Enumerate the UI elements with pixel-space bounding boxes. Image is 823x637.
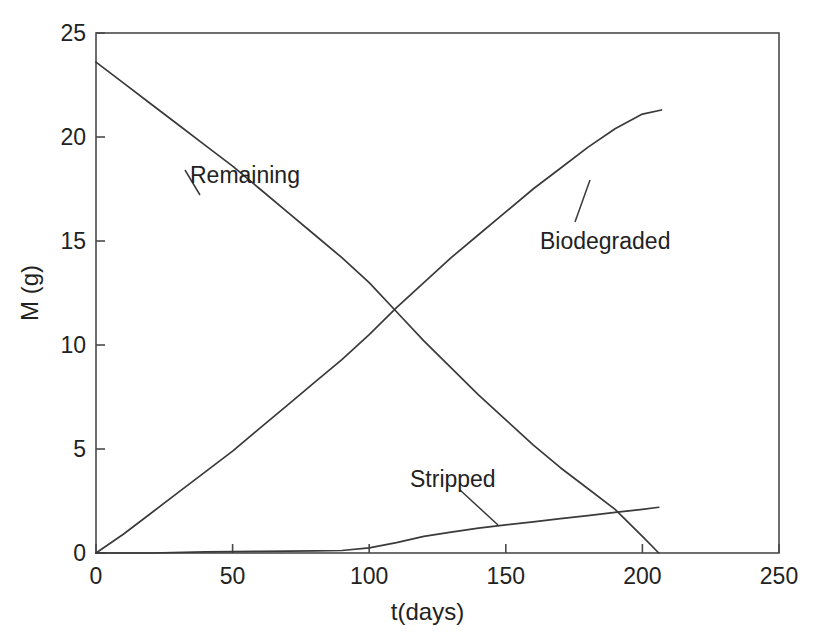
x-tick-label: 0 xyxy=(90,563,103,590)
x-tick-label: 150 xyxy=(487,563,525,590)
y-tick-label: 20 xyxy=(54,124,86,151)
chart-figure: 050100150200250 0510152025 RemainingBiod… xyxy=(0,0,823,637)
leader-line xyxy=(575,180,590,222)
plot-canvas xyxy=(0,0,823,637)
annotation-leader-lines xyxy=(185,170,590,525)
series-label: Remaining xyxy=(190,162,300,189)
series-line xyxy=(96,62,659,553)
x-axis-title: t(days) xyxy=(391,598,464,626)
series-line xyxy=(96,110,662,553)
y-tick-label: 5 xyxy=(54,436,86,463)
y-axis-title: M (g) xyxy=(16,265,44,321)
x-tick-label: 250 xyxy=(760,563,798,590)
x-tick-label: 100 xyxy=(350,563,388,590)
series-line xyxy=(96,507,659,553)
x-tick-label: 50 xyxy=(220,563,246,590)
y-tick-label: 0 xyxy=(54,540,86,567)
y-tick-label: 15 xyxy=(54,228,86,255)
leader-line xyxy=(460,490,498,525)
x-tick-label: 200 xyxy=(623,563,661,590)
y-tick-label: 25 xyxy=(54,20,86,47)
series-label: Stripped xyxy=(410,466,496,493)
y-tick-label: 10 xyxy=(54,332,86,359)
data-series-group xyxy=(96,62,662,553)
series-label: Biodegraded xyxy=(540,228,670,255)
